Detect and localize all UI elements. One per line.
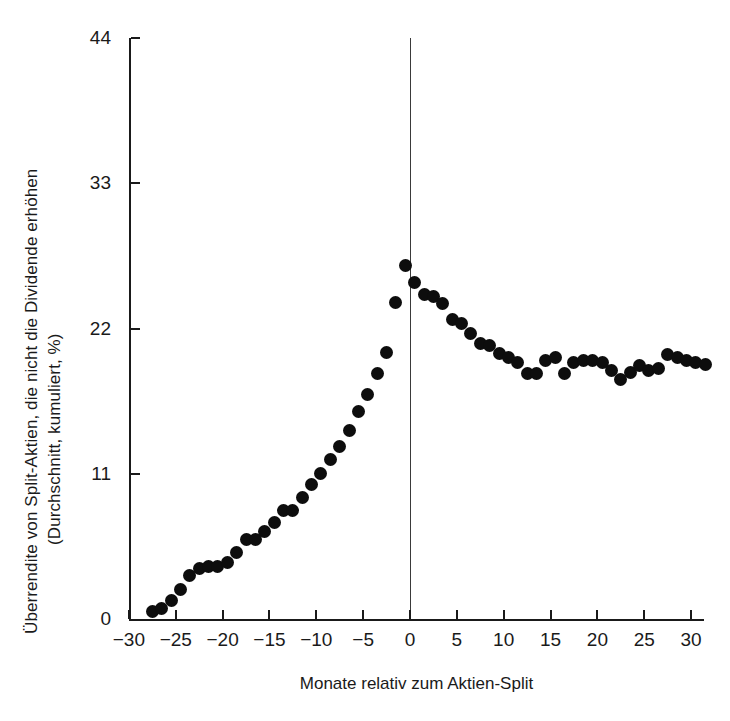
y-axis-tick-label: 33 [51, 173, 111, 192]
x-axis-tick-label: 30 [661, 629, 721, 651]
data-point [652, 362, 665, 375]
chart-figure: Überrendite von Split-Aktien, die nicht … [0, 0, 730, 721]
data-point [558, 367, 571, 380]
plot-area [129, 38, 703, 619]
data-point [296, 491, 309, 504]
data-point [530, 367, 543, 380]
data-point [268, 516, 281, 529]
y-axis-tick-label: 44 [51, 28, 111, 47]
data-point [699, 358, 712, 371]
y-axis-tick-label: 11 [51, 464, 111, 483]
data-point [408, 276, 421, 289]
data-point [305, 478, 318, 491]
y-axis-title-line-1: Überrendite von Split-Aktien, die nicht … [22, 169, 42, 634]
data-point [343, 424, 356, 437]
data-point [371, 367, 384, 380]
data-point [324, 453, 337, 466]
data-point [380, 346, 393, 359]
x-axis-line [129, 619, 704, 621]
data-point [389, 296, 402, 309]
data-point [399, 259, 412, 272]
y-axis-tick-label: 22 [51, 319, 111, 338]
data-point [165, 594, 178, 607]
y-axis-tick-label: 0 [51, 609, 111, 628]
y-axis-title-line-2: (Durchschnitt, kumuliert, %) [45, 333, 65, 545]
x-axis-title: Monate relativ zum Aktien-Split [129, 674, 704, 694]
data-point [549, 351, 562, 364]
data-point [333, 440, 346, 453]
